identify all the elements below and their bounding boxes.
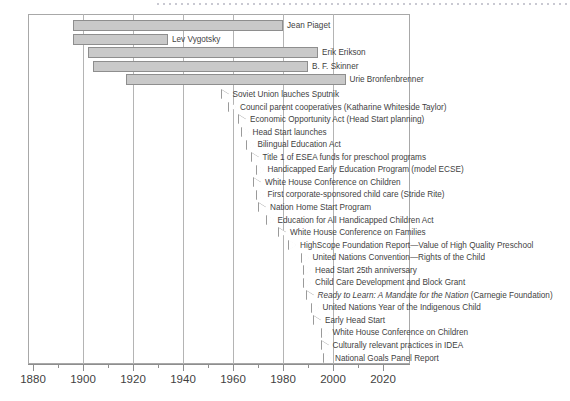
triangle-marker-icon — [289, 240, 297, 250]
event-marker-row: White House Conference on Children — [322, 326, 469, 337]
event-marker-row: First corporate-sponsored child care (St… — [257, 188, 445, 199]
lifespan-bar-label: Lev Vygotsky — [172, 34, 220, 45]
triangle-marker-icon — [322, 328, 330, 338]
x-minor-tick-1890 — [58, 364, 59, 368]
event-label: Education for All Handicapped Children A… — [278, 216, 434, 225]
x-tick-label-1880: 1880 — [20, 373, 46, 385]
triangle-marker-icon — [257, 165, 265, 175]
lifespan-bar — [88, 47, 318, 58]
x-tick-1900 — [83, 364, 84, 371]
x-minor-tick-2010 — [358, 364, 359, 368]
x-tick-1960 — [233, 364, 234, 371]
event-label: Head Start launches — [253, 128, 327, 137]
triangle-marker-icon — [324, 353, 332, 363]
event-marker-row: Child Care Development and Block Grant — [304, 276, 465, 287]
lifespan-bar-label: Urie Bronfenbrenner — [350, 74, 424, 85]
x-tick-1920 — [133, 364, 134, 371]
event-marker-row: Council parent cooperatives (Katharine W… — [229, 101, 446, 112]
event-marker-row: Nation Home Start Program — [259, 201, 371, 212]
event-marker-row: Culturally relevant practices in IDEA — [322, 339, 464, 350]
lifespan-bar-label: Jean Piaget — [287, 20, 330, 31]
event-marker-row: United Nations Year of the Indigenous Ch… — [312, 301, 481, 312]
x-minor-tick-1970 — [258, 364, 259, 368]
x-tick-label-1960: 1960 — [220, 373, 246, 385]
lifespan-bar-label: B. F. Skinner — [312, 61, 358, 72]
x-axis-line — [28, 364, 410, 365]
x-tick-label-1920: 1920 — [120, 373, 146, 385]
triangle-marker-icon — [222, 90, 230, 100]
x-minor-tick-1950 — [208, 364, 209, 368]
triangle-marker-icon — [229, 102, 237, 112]
event-marker-row: Bilingual Education Act — [247, 138, 341, 149]
x-tick-2000 — [333, 364, 334, 371]
x-tick-1880 — [33, 364, 34, 371]
triangle-marker-icon — [302, 253, 310, 263]
triangle-marker-icon — [304, 278, 312, 288]
triangle-marker-icon — [257, 190, 265, 200]
event-marker-row: National Goals Panel Report — [324, 352, 439, 363]
timeline-figure: Jean PiagetLev VygotskyErik EriksonB. F.… — [0, 0, 570, 401]
event-label: Child Care Development and Block Grant — [315, 279, 465, 288]
triangle-marker-icon — [239, 115, 247, 125]
event-label: Nation Home Start Program — [270, 203, 371, 212]
x-minor-tick-1930 — [158, 364, 159, 368]
event-marker-row: White House Conference on Families — [279, 226, 426, 237]
x-tick-label-2020: 2020 — [370, 373, 396, 385]
event-marker-row: Soviet Union lauches Sputnik — [222, 88, 340, 99]
triangle-marker-icon — [322, 341, 330, 351]
event-marker-row: Title 1 of ESEA funds for preschool prog… — [252, 151, 427, 162]
event-label: Culturally relevant practices in IDEA — [333, 341, 464, 350]
gridline-1900 — [83, 14, 84, 364]
event-label: Council parent cooperatives (Katharine W… — [240, 103, 446, 112]
event-label: United Nations Convention—Rights of the … — [313, 253, 486, 262]
event-marker-row: Education for All Handicapped Children A… — [267, 214, 434, 225]
triangle-marker-icon — [259, 203, 267, 213]
x-tick-1940 — [183, 364, 184, 371]
x-minor-tick-1910 — [108, 364, 109, 368]
triangle-marker-icon — [242, 127, 250, 137]
x-tick-1980 — [283, 364, 284, 371]
top-dotted-rule — [157, 3, 570, 5]
triangle-marker-icon — [304, 265, 312, 275]
x-tick-2020 — [383, 364, 384, 371]
event-label: Early Head Start — [325, 316, 385, 325]
triangle-marker-icon — [314, 316, 322, 326]
event-label: Bilingual Education Act — [258, 140, 341, 149]
event-marker-row: Head Start 25th anniversary — [304, 264, 417, 275]
x-tick-label-2000: 2000 — [320, 373, 346, 385]
event-marker-row: White House Conference on Children — [254, 176, 401, 187]
event-marker-row: United Nations Convention—Rights of the … — [302, 251, 486, 262]
event-marker-row: HighScope Foundation Report—Value of Hig… — [289, 239, 533, 250]
event-label: Title 1 of ESEA funds for preschool prog… — [263, 153, 427, 162]
event-marker-row: Handicapped Early Education Program (mod… — [257, 163, 464, 174]
event-label: United Nations Year of the Indigenous Ch… — [323, 304, 481, 313]
event-label: Head Start 25th anniversary — [315, 266, 417, 275]
lifespan-bar — [73, 34, 168, 45]
triangle-marker-icon — [312, 303, 320, 313]
lifespan-bar — [93, 61, 308, 72]
x-minor-tick-1990 — [308, 364, 309, 368]
event-marker-row: Early Head Start — [314, 314, 385, 325]
x-tick-label-1940: 1940 — [170, 373, 196, 385]
event-marker-row: Ready to Learn: A Mandate for the Nation… — [307, 289, 553, 300]
event-label: White House Conference on Children — [333, 329, 469, 338]
x-tick-label-1980: 1980 — [270, 373, 296, 385]
event-label: First corporate-sponsored child care (St… — [268, 191, 445, 200]
x-tick-label-1900: 1900 — [70, 373, 96, 385]
event-label: HighScope Foundation Report—Value of Hig… — [300, 241, 533, 250]
event-label: National Goals Panel Report — [335, 354, 439, 363]
lifespan-bar — [126, 74, 346, 85]
event-label: White House Conference on Families — [290, 228, 426, 237]
triangle-marker-icon — [307, 291, 315, 301]
lifespan-bar — [73, 20, 283, 31]
figure-caption-clipped — [12, 392, 312, 401]
event-marker-row: Economic Opportunity Act (Head Start pla… — [239, 113, 424, 124]
triangle-marker-icon — [254, 178, 262, 188]
event-label: Economic Opportunity Act (Head Start pla… — [250, 115, 424, 124]
event-label: Soviet Union lauches Sputnik — [233, 90, 340, 99]
triangle-marker-icon — [267, 215, 275, 225]
event-label: Ready to Learn: A Mandate for the Nation… — [318, 291, 553, 300]
triangle-marker-icon — [252, 153, 260, 163]
event-label: Handicapped Early Education Program (mod… — [268, 166, 464, 175]
event-marker-row: Head Start launches — [242, 126, 327, 137]
